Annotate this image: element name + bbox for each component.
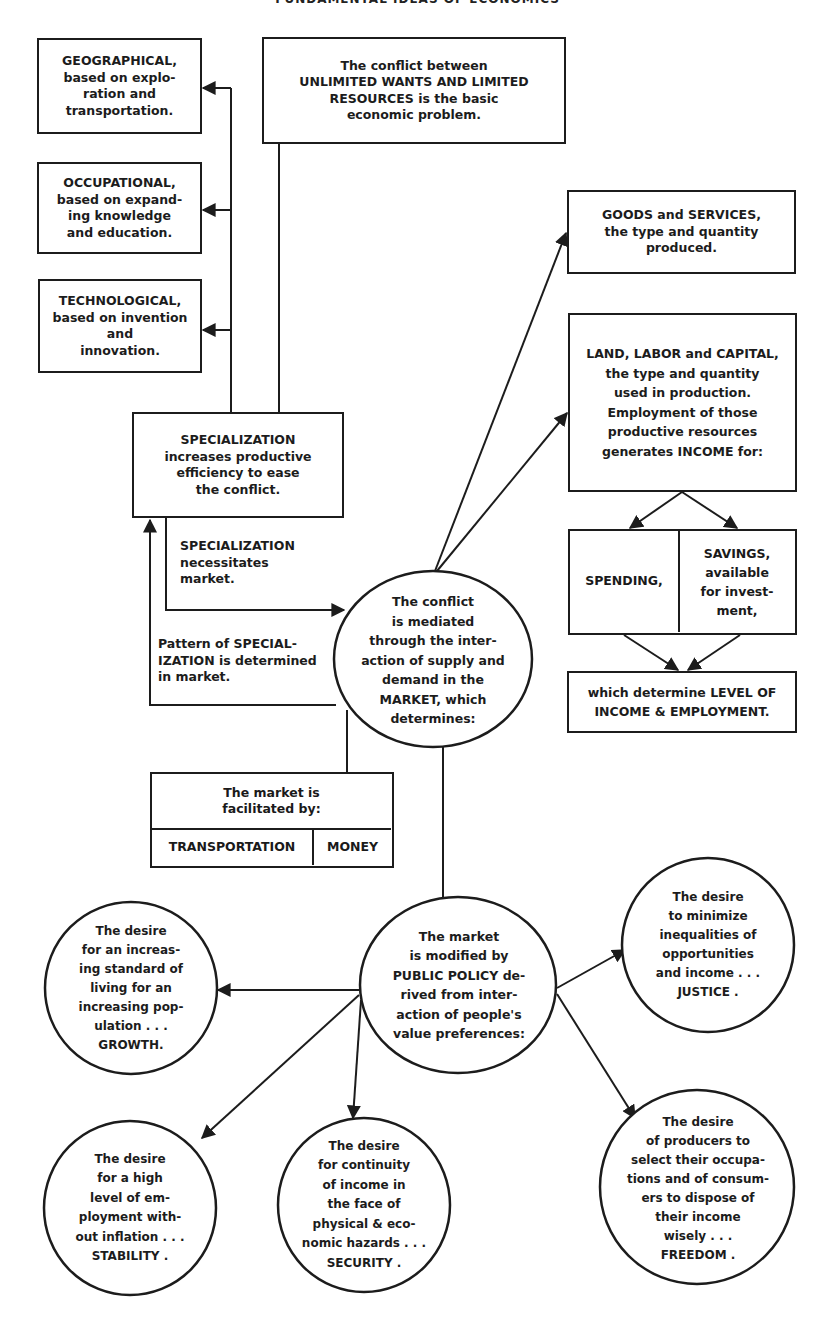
arrow-to-land bbox=[437, 413, 567, 571]
freedom-circle: The desire of producers to select their … bbox=[612, 1110, 784, 1268]
facilitated-header: The market is facilitated by: bbox=[152, 774, 391, 830]
arrow-to-justice bbox=[557, 950, 625, 988]
land-labor-capital-box: LAND, LABOR and CAPITAL, the type and qu… bbox=[568, 313, 797, 492]
arrow-to-savings bbox=[682, 492, 737, 528]
spending-cell: SPENDING, bbox=[570, 531, 680, 632]
transportation-cell: TRANSPORTATION bbox=[152, 830, 314, 865]
necessitates-market-label: SPECIALIZATION necessitates market. bbox=[180, 538, 295, 588]
savings-cell: SAVINGS, available for invest- ment, bbox=[680, 531, 794, 632]
spending-savings-box: SPENDING, SAVINGS, available for invest-… bbox=[568, 529, 797, 635]
arrow-spending-to-level bbox=[624, 635, 678, 670]
arrow-to-stability bbox=[202, 995, 359, 1138]
pattern-determined-label: Pattern of SPECIAL- IZATION is determine… bbox=[158, 636, 317, 686]
facilitated-box: The market is facilitated by: TRANSPORTA… bbox=[150, 772, 394, 868]
money-cell: MONEY bbox=[314, 830, 391, 865]
arrow-to-goods bbox=[435, 233, 566, 571]
stability-circle: The desire for a high level of em- ploym… bbox=[54, 1140, 206, 1276]
arrow-to-spending bbox=[630, 492, 682, 528]
growth-circle: The desire for an increas- ing standard … bbox=[55, 915, 207, 1061]
level-income-box: which determine LEVEL OF INCOME & EMPLOY… bbox=[567, 671, 797, 733]
occupational-box: OCCUPATIONAL, based on expand- ing knowl… bbox=[37, 162, 202, 254]
technological-box: TECHNOLOGICAL, based on invention and in… bbox=[38, 279, 202, 373]
public-policy-circle: The market is modified by PUBLIC POLICY … bbox=[368, 920, 550, 1050]
justice-circle: The desire to minimize inequalities of o… bbox=[635, 880, 781, 1010]
goods-services-box: GOODS and SERVICES, the type and quantit… bbox=[567, 190, 796, 274]
arrow-to-security bbox=[353, 1000, 361, 1118]
arrow-savings-to-level bbox=[688, 635, 740, 670]
market-circle: The conflict is mediated through the int… bbox=[340, 578, 526, 743]
arrow-to-freedom bbox=[557, 994, 635, 1118]
geographical-box: GEOGRAPHICAL, based on explo- ration and… bbox=[37, 38, 202, 134]
specialization-box: SPECIALIZATION increases productive effi… bbox=[132, 412, 344, 518]
security-circle: The desire for continuity of income in t… bbox=[285, 1130, 443, 1280]
basic-problem-box: The conflict between UNLIMITED WANTS AND… bbox=[262, 37, 566, 144]
